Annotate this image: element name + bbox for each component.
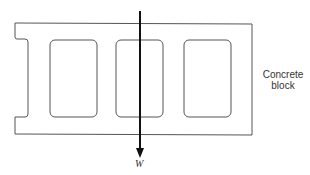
concrete-block-label: Concrete block (258, 69, 308, 91)
block-hole-3 (184, 40, 231, 117)
label-line-1: Concrete (258, 69, 308, 80)
label-line-2: block (258, 80, 308, 91)
block-hole-1 (50, 40, 97, 117)
weight-label: W (135, 158, 143, 169)
weight-arrow-head (136, 148, 144, 158)
